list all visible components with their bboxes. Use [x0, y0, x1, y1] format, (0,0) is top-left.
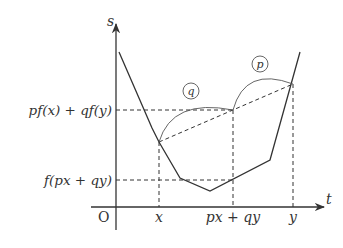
y-tick-pf-qf: pf(x) + qf(y) — [29, 102, 112, 118]
arc-p-label: p — [256, 58, 263, 71]
x-axis-label: t — [326, 191, 332, 207]
y-tick-fpxqy: f(px + qy) — [43, 172, 112, 188]
diagram-canvas: q p s t O pf(x) + qf(y) f(px + qy) x px … — [0, 0, 343, 248]
x-tick-pxqy: px + qy — [206, 209, 261, 225]
x-tick-x: x — [155, 209, 163, 225]
chord — [159, 84, 293, 142]
convexity-diagram: q p s t O pf(x) + qf(y) f(px + qy) x px … — [0, 0, 343, 248]
y-axis-label: s — [107, 13, 114, 29]
arc-q-label: q — [187, 85, 194, 98]
function-curve — [119, 52, 300, 191]
x-tick-y: y — [288, 209, 298, 225]
origin-label: O — [98, 209, 109, 225]
arc-p — [233, 79, 293, 110]
arc-q — [159, 107, 233, 142]
